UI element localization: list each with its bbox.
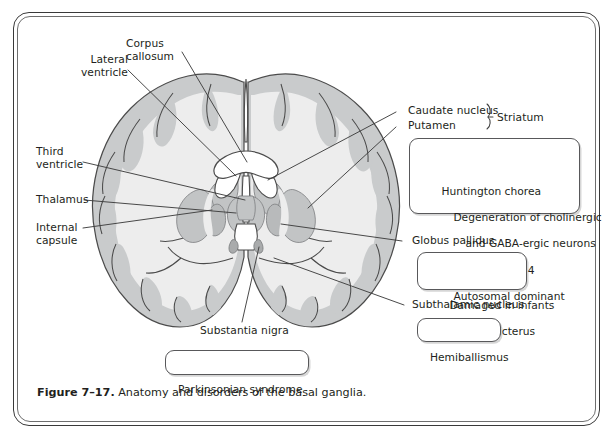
label-corpus-callosum: Corpuscallosum — [126, 38, 174, 63]
label-third-ventricle: Thirdventricle — [36, 146, 83, 171]
figure-page: Lateralventricle Corpuscallosum Thirdven… — [0, 0, 615, 444]
label-internal-capsule-line1: Internal — [36, 221, 78, 234]
label-corpus-callosum-line1: Corpus — [126, 37, 164, 50]
label-putamen: Putamen — [408, 120, 456, 133]
hemiballismus-box: Hemiballismus — [417, 318, 501, 342]
label-internal-capsule-line2: capsule — [36, 234, 77, 247]
right-hemisphere — [248, 74, 400, 327]
label-striatum: Striatum — [497, 112, 544, 125]
kernicterus-box: Damaged in infants with kernicterus — [417, 252, 527, 290]
label-internal-capsule: Internalcapsule — [36, 222, 78, 247]
huntington-line2: Degeneration of cholinergic — [453, 211, 601, 224]
left-hemisphere — [92, 74, 244, 327]
huntington-line3: and GABA-ergic neurons — [465, 237, 595, 250]
huntington-chorea-box: Huntington chorea Degeneration of cholin… — [409, 138, 580, 214]
hemiballismus-line1: Hemiballismus — [430, 351, 509, 364]
label-corpus-callosum-line2: callosum — [126, 50, 174, 63]
label-lateral-ventricle-line2: ventricle — [81, 66, 128, 79]
label-third-ventricle-line1: Third — [36, 145, 64, 158]
figure-caption: Figure 7–17. Anatomy and disorders of th… — [37, 386, 366, 400]
label-third-ventricle-line2: ventricle — [36, 158, 83, 171]
figure-caption-text: Anatomy and disorders of the basal gangl… — [115, 386, 367, 399]
parkinsonian-syndrome-box: Parkinsonian syndrome — [165, 350, 309, 375]
label-substantia-nigra: Substantia nigra — [200, 325, 289, 338]
label-lateral-ventricle: Lateralventricle — [52, 54, 128, 79]
kernicterus-line1: Damaged in infants — [449, 299, 554, 312]
label-caudate-nucleus: Caudate nucleus — [408, 105, 498, 118]
label-lateral-ventricle-line1: Lateral — [90, 53, 128, 66]
huntington-line1: Huntington chorea — [441, 185, 541, 198]
figure-number: Figure 7–17. — [37, 386, 115, 399]
label-thalamus: Thalamus — [36, 194, 89, 207]
